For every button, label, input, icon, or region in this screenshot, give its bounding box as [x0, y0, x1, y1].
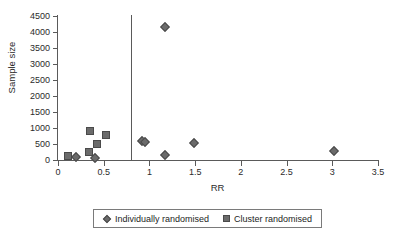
y-tick-label: 2000	[30, 92, 50, 101]
data-point-diamond	[329, 146, 339, 156]
data-point-diamond	[160, 150, 170, 160]
data-point-diamond	[160, 22, 170, 32]
legend-label: Individually randomised	[115, 214, 209, 224]
reference-line	[131, 15, 132, 160]
x-tick-mark	[58, 161, 59, 166]
x-tick-mark	[195, 161, 196, 166]
legend-entry[interactable]: Cluster randomised	[223, 214, 312, 224]
x-tick-mark	[104, 161, 105, 166]
y-tick-label: 3000	[30, 60, 50, 69]
diamond-marker-icon	[103, 214, 111, 222]
x-tick-mark	[287, 161, 288, 166]
x-tick-label: 1.5	[180, 168, 210, 177]
x-axis-title-text: RR	[179, 182, 225, 193]
data-point-diamond	[189, 138, 199, 148]
y-axis-title: Sample size	[6, 33, 17, 103]
data-point-square	[64, 152, 72, 160]
x-axis-line	[57, 160, 379, 161]
y-tick-label: 1000	[30, 124, 50, 133]
y-tick-label: 500	[35, 140, 50, 149]
x-tick-mark	[378, 161, 379, 166]
x-axis-title: RR	[0, 182, 403, 193]
y-tick-label: 3500	[30, 44, 50, 53]
data-point-square	[102, 131, 110, 139]
x-tick-label: 3	[317, 168, 347, 177]
data-point-square	[93, 140, 101, 148]
legend-label: Cluster randomised	[234, 214, 312, 224]
y-tick-label: 0	[45, 156, 50, 165]
data-point-square	[86, 127, 94, 135]
x-tick-label: 2.5	[272, 168, 302, 177]
chart-legend: Individually randomisedCluster randomise…	[93, 209, 322, 228]
x-tick-mark	[241, 161, 242, 166]
x-tick-label: 3.5	[363, 168, 393, 177]
scatter-chart: 050010001500200025003000350040004500 00.…	[0, 0, 403, 239]
x-tick-label: 1	[134, 168, 164, 177]
plot-area	[58, 16, 378, 160]
x-tick-label: 2	[226, 168, 256, 177]
square-marker-icon	[223, 215, 230, 222]
y-tick-label: 2500	[30, 76, 50, 85]
data-point-square	[85, 148, 93, 156]
x-tick-label: 0	[43, 168, 73, 177]
legend-entry[interactable]: Individually randomised	[103, 214, 209, 224]
y-tick-label: 4000	[30, 28, 50, 37]
x-tick-mark	[149, 161, 150, 166]
y-tick-label: 1500	[30, 108, 50, 117]
x-tick-label: 0.5	[89, 168, 119, 177]
y-tick-label: 4500	[30, 12, 50, 21]
x-tick-mark	[332, 161, 333, 166]
